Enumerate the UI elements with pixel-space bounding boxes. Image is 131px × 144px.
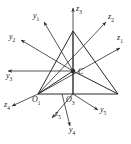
- points-group: [71, 69, 75, 73]
- coordinate-frame-figure: y1y2y3z3z2z1z4z5y4y5CO1O3: [0, 0, 131, 144]
- axis-label-y2: y2: [9, 33, 15, 43]
- axis-label-z5: z5: [55, 110, 61, 120]
- outer-triangle: [38, 31, 118, 94]
- axis-label-z1: z1: [117, 34, 123, 44]
- axis-label-y1: y1: [33, 12, 39, 22]
- point-label-O1: O1: [32, 96, 41, 106]
- triangle-group: [38, 31, 118, 94]
- axis-label-y4: y4: [69, 126, 75, 136]
- axis-arrow-y5: [73, 94, 98, 110]
- left-to-center: [38, 71, 73, 94]
- axis-label-y5: y5: [100, 106, 106, 116]
- axis-label-y3: y3: [6, 72, 12, 82]
- point-C: [71, 69, 75, 73]
- point-label-O3: O3: [66, 96, 75, 106]
- axis-label-z2: z2: [108, 13, 114, 23]
- axis-arrow-y1: [44, 22, 73, 71]
- point-label-C: C: [78, 68, 83, 76]
- axis-label-z4: z4: [4, 101, 10, 111]
- axis-label-z3: z3: [76, 5, 82, 15]
